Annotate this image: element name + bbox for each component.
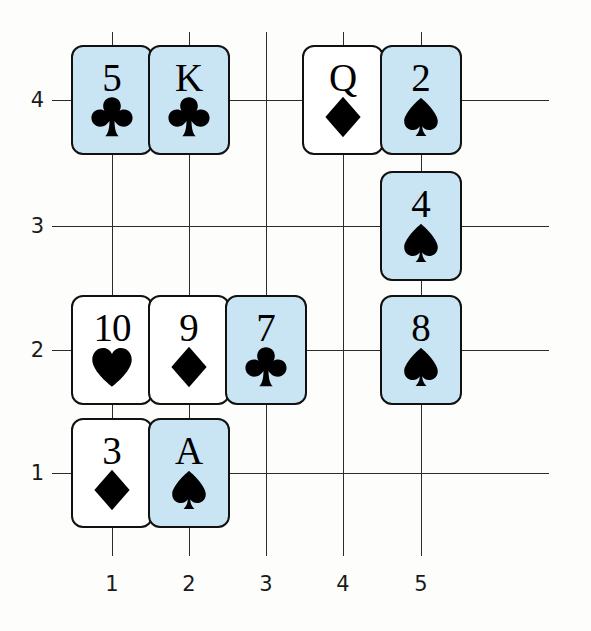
playing-card-q-of-diamonds[interactable]: Q [302, 45, 384, 155]
x-axis-tick-label-4: 4 [328, 572, 358, 596]
spade-suit-icon [399, 96, 443, 138]
card-rank-label: 7 [256, 310, 276, 346]
x-axis-tick-label-2: 2 [174, 572, 204, 596]
card-rank-label: 10 [94, 310, 131, 346]
heart-suit-icon [90, 346, 134, 388]
card-rank-label: 8 [411, 310, 431, 346]
y-axis-tick-label-4: 4 [18, 88, 44, 112]
card-grid-figure: 123412345 5KQ24109783A [0, 0, 591, 631]
playing-card-7-of-clubs[interactable]: 7 [225, 295, 307, 405]
card-rank-label: K [175, 60, 203, 96]
y-axis-tick-label-1: 1 [18, 461, 44, 485]
playing-card-8-of-spades[interactable]: 8 [380, 295, 462, 405]
y-axis-tick-label-3: 3 [18, 214, 44, 238]
x-axis-tick-label-5: 5 [406, 572, 436, 596]
playing-card-9-of-diamonds[interactable]: 9 [148, 295, 230, 405]
gridline-vertical-3 [266, 32, 267, 556]
card-rank-label: 9 [179, 310, 199, 346]
diamond-suit-icon [90, 469, 134, 511]
card-rank-label: 5 [102, 60, 122, 96]
card-rank-label: 4 [411, 186, 431, 222]
diamond-suit-icon [321, 96, 365, 138]
gridline-horizontal-3 [52, 226, 549, 227]
card-rank-label: 2 [411, 60, 431, 96]
playing-card-2-of-spades[interactable]: 2 [380, 45, 462, 155]
spade-suit-icon [167, 469, 211, 511]
card-rank-label: 3 [102, 433, 122, 469]
playing-card-k-of-clubs[interactable]: K [148, 45, 230, 155]
playing-card-a-of-spades[interactable]: A [148, 418, 230, 528]
y-axis-tick-label-2: 2 [18, 338, 44, 362]
spade-suit-icon [399, 222, 443, 264]
club-suit-icon [244, 346, 288, 388]
club-suit-icon [167, 96, 211, 138]
playing-card-5-of-clubs[interactable]: 5 [71, 45, 153, 155]
club-suit-icon [90, 96, 134, 138]
x-axis-tick-label-1: 1 [97, 572, 127, 596]
playing-card-10-of-hearts[interactable]: 10 [71, 295, 153, 405]
playing-card-3-of-diamonds[interactable]: 3 [71, 418, 153, 528]
card-rank-label: Q [329, 60, 357, 96]
x-axis-tick-label-3: 3 [251, 572, 281, 596]
playing-card-4-of-spades[interactable]: 4 [380, 171, 462, 281]
card-rank-label: A [175, 433, 203, 469]
diamond-suit-icon [167, 346, 211, 388]
spade-suit-icon [399, 346, 443, 388]
